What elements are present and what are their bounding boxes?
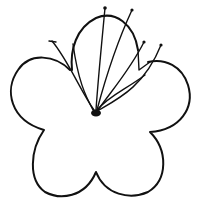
petal-fold [138, 50, 150, 70]
petal-vein [73, 44, 93, 110]
upper-petal [72, 16, 138, 70]
flower-center [91, 110, 101, 117]
stamen [98, 42, 144, 110]
stamen-tip [159, 43, 162, 46]
stamen-tip [130, 8, 133, 11]
petal-outline [11, 58, 190, 197]
stamen [96, 8, 105, 110]
stamen-tip [142, 40, 145, 43]
stamen-tip [49, 41, 56, 42]
flower-drawing [0, 0, 198, 203]
flower-illustration [0, 0, 198, 203]
petal-vein [97, 75, 145, 110]
stamen-tip [103, 6, 107, 10]
